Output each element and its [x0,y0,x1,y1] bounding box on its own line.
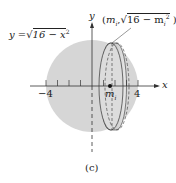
y-axis-label: y [89,11,95,21]
x-axis-label: x [162,80,168,90]
leader-line [112,28,131,43]
tick-label-neg4: −4 [38,89,53,99]
curve-label: y =√16 − x2 [9,29,70,40]
figure-caption: (c) [85,163,98,173]
tick-label-mi: mi [105,89,116,101]
tick-label-4: 4 [134,89,140,99]
sphere-disc-diagram [0,0,176,183]
point-label: (mi,√16 − mi2 ) [102,14,176,27]
x-axis-arrow-icon [154,84,160,88]
y-axis-arrow-icon [90,22,94,28]
